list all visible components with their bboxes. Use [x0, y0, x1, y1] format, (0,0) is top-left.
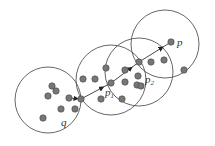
- data-point: [122, 67, 128, 73]
- data-point: [148, 59, 154, 65]
- circle-p: [131, 10, 199, 78]
- data-point: [103, 65, 109, 71]
- data-point: [136, 59, 142, 65]
- label-p1: p1: [104, 86, 114, 100]
- data-point: [40, 115, 46, 121]
- data-point: [58, 106, 64, 112]
- data-point: [181, 67, 187, 73]
- arrow-segment: [111, 67, 132, 83]
- data-point: [53, 88, 59, 94]
- circle-p2: [105, 38, 173, 106]
- data-point: [80, 76, 86, 82]
- label-p: p: [176, 36, 183, 48]
- data-point: [92, 76, 98, 82]
- label-q: q: [61, 116, 67, 128]
- data-points: [40, 39, 187, 121]
- data-point: [168, 39, 174, 45]
- data-point: [72, 106, 78, 112]
- data-point: [119, 96, 125, 102]
- data-point: [45, 93, 51, 99]
- data-point: [98, 96, 104, 102]
- data-point: [78, 96, 84, 102]
- label-p2: p2: [144, 73, 155, 87]
- data-point: [66, 95, 72, 101]
- density-reachability-diagram: q p1 p2 p: [0, 0, 215, 146]
- data-point: [122, 79, 128, 85]
- data-point: [138, 83, 144, 89]
- data-point: [161, 57, 167, 63]
- reachability-arrows: [69, 42, 171, 99]
- data-point: [135, 73, 141, 79]
